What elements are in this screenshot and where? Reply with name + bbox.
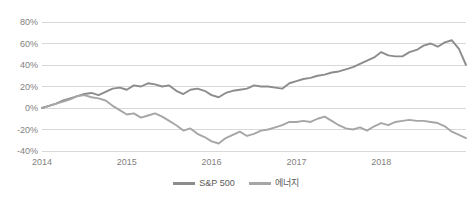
series-line-sp500 xyxy=(42,40,466,108)
series-line-energy xyxy=(42,95,466,143)
y-tick-label: 40% xyxy=(4,60,38,70)
chart-container: 80%60%40%20%0%-20%-40% 20142015201620172… xyxy=(0,0,472,202)
legend-item-energy[interactable]: 에너지 xyxy=(249,178,299,189)
legend-item-sp500[interactable]: S&P 500 xyxy=(173,178,234,189)
y-tick-label: 80% xyxy=(4,17,38,27)
x-tick-label: 2014 xyxy=(22,157,62,168)
chart-plot-area xyxy=(0,0,472,202)
chart-legend: S&P 500에너지 xyxy=(0,178,472,189)
y-tick-label: 0% xyxy=(4,103,38,113)
series-lines xyxy=(42,40,466,143)
legend-line-icon xyxy=(173,182,195,185)
y-tick-label: -40% xyxy=(4,146,38,156)
legend-label: 에너지 xyxy=(275,178,299,189)
y-tick-label: -20% xyxy=(4,125,38,135)
x-tick-label: 2018 xyxy=(361,157,401,168)
x-tick-label: 2017 xyxy=(276,157,316,168)
gridlines xyxy=(42,22,466,151)
legend-label: S&P 500 xyxy=(199,178,234,189)
x-tick-label: 2015 xyxy=(107,157,147,168)
legend-line-icon xyxy=(249,182,271,185)
x-tick-label: 2016 xyxy=(192,157,232,168)
y-tick-label: 60% xyxy=(4,39,38,49)
y-tick-label: 20% xyxy=(4,82,38,92)
